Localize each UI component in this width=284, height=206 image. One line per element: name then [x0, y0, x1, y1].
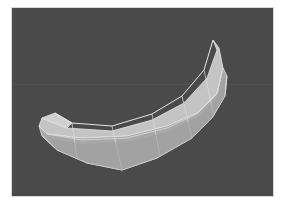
curved-mesh-object[interactable] [12, 8, 274, 197]
3d-viewport[interactable] [11, 7, 274, 197]
